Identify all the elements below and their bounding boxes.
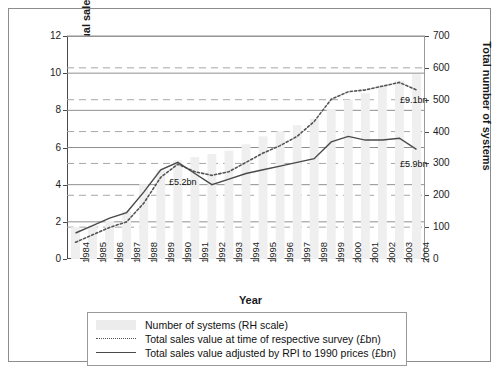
plot-area [67,36,425,259]
x-tick-label: 2001 [369,242,380,263]
y-tick-mark-left [63,222,67,223]
y-tick-mark-right [425,132,429,133]
x-tick-label: 1985 [97,242,108,263]
x-tick-label: 1995 [267,242,278,263]
y-tick-label-left: 2 [35,216,61,227]
legend-label: Total sales value at time of respective … [145,333,381,345]
x-tick-label: 1990 [182,242,193,263]
x-tick-label: 2003 [403,242,414,263]
y-tick-mark-left [63,148,67,149]
y-tick-label-right: 0 [433,253,463,264]
y-tick-mark-left [63,110,67,111]
x-tick-label: 1994 [250,242,261,263]
y-tick-label-left: 0 [35,253,61,264]
legend-swatch-icon [96,352,136,353]
x-tick-label: 1992 [216,242,227,263]
x-tick-label: 1993 [233,242,244,263]
legend-swatch-icon [96,320,136,330]
x-tick-label: 1999 [335,242,346,263]
x-tick-label: 2000 [352,242,363,263]
legend-label: Total sales value adjusted by RPI to 199… [145,347,396,359]
legend-item: Total sales value at time of respective … [94,332,400,346]
legend-key-solid [94,347,138,359]
y-tick-mark-left [63,185,67,186]
y-tick-label-right: 400 [433,126,463,137]
x-tick-label: 1991 [199,242,210,263]
legend-key-dotted [94,333,138,345]
x-tick-label: 1989 [165,242,176,263]
y-tick-mark-right [425,36,429,37]
y-tick-label-left: 4 [35,179,61,190]
y-tick-mark-right [425,195,429,196]
y-tick-mark-left [63,36,67,37]
x-tick-label: 1988 [148,242,159,263]
y-tick-label-right: 300 [433,157,463,168]
y-tick-label-right: 500 [433,94,463,105]
x-tick-label: 1987 [131,242,142,263]
y-tick-mark-right [425,227,429,228]
y-tick-label-left: 8 [35,104,61,115]
line-survey-value [76,82,417,242]
y-tick-label-right: 100 [433,221,463,232]
x-axis-title: Year [9,294,492,306]
line-rpi-adjusted [76,136,417,233]
y-tick-mark-right [425,68,429,69]
annot-5-2bn: £5.2bn [169,177,197,187]
legend-item: Total sales value adjusted by RPI to 199… [94,346,400,360]
legend-label: Number of systems (RH scale) [145,319,288,331]
legend-swatch-icon [96,338,136,339]
y-tick-label-right: 700 [433,30,463,41]
y-tick-label-left: 6 [35,142,61,153]
x-tick-label: 1996 [284,242,295,263]
y-tick-label-left: 10 [35,67,61,78]
y-tick-mark-left [63,73,67,74]
x-tick-label: 2002 [386,242,397,263]
annot-9-1bn: £9.1bn [400,95,428,105]
y-tick-mark-left [63,259,67,260]
legend-key-bar [94,319,138,331]
right-axis-title: Total number of systems [480,26,494,186]
y-tick-label-right: 200 [433,189,463,200]
y-tick-label-right: 600 [433,62,463,73]
legend-item: Number of systems (RH scale) [94,318,400,332]
legend: Number of systems (RH scale)Total sales … [87,312,407,366]
lines-layer [67,36,425,259]
x-tick-label: 2004 [420,242,431,263]
x-tick-label: 1986 [114,242,125,263]
annot-5-9bn: £5.9bn [400,159,428,169]
figure-frame: Combined unit outlet annual sales turnov… [8,8,491,362]
x-tick-label: 1997 [301,242,312,263]
x-tick-label: 1984 [80,242,91,263]
x-tick-label: 1998 [318,242,329,263]
y-tick-label-left: 12 [35,30,61,41]
